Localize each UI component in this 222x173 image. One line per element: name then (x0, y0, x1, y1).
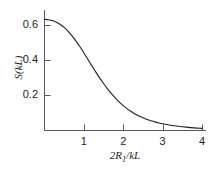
x-axis-title-prefix: 2R (110, 149, 122, 161)
y-axis-ticks (45, 26, 51, 96)
x-axis-tick-label: 4 (188, 136, 216, 147)
data-series-line (45, 19, 203, 128)
x-axis-tick-label: 3 (149, 136, 177, 147)
x-axis-title-suffix: /kL (126, 149, 140, 161)
x-axis-tick-label: 1 (70, 136, 98, 147)
x-axis-title: 2R1/kL (45, 150, 205, 164)
chart-figure: 0.20.40.6 1234 S(kL) 2R1/kL (0, 0, 222, 173)
y-axis-title: S(kL) (13, 38, 24, 98)
y-axis-tick-label: 0.6 (6, 19, 38, 30)
x-axis-tick-label: 2 (109, 136, 137, 147)
